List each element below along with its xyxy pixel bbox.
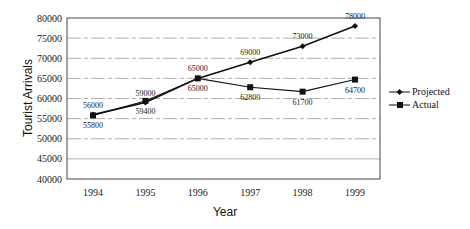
diamond-marker-icon — [352, 23, 358, 29]
y-tick-label: 65000 — [37, 73, 62, 84]
y-tick-label: 75000 — [37, 33, 62, 44]
y-tick-label: 40000 — [37, 174, 62, 185]
diamond-marker-icon — [300, 43, 306, 49]
y-tick-label: 45000 — [37, 153, 62, 164]
data-label: 55800 — [83, 121, 103, 130]
x-tick-label: 1995 — [135, 187, 155, 198]
y-axis-ticks: 4000045000500005500060000650007000075000… — [37, 13, 62, 185]
x-axis-title: Year — [213, 205, 237, 219]
square-marker-icon — [247, 84, 253, 90]
y-tick-label: 55000 — [37, 113, 62, 124]
series-line-projected — [93, 26, 355, 115]
x-tick-label: 1998 — [293, 187, 313, 198]
data-label: 59000 — [135, 89, 155, 98]
y-tick-label: 70000 — [37, 53, 62, 64]
legend-item-actual: Actual — [389, 99, 439, 110]
square-marker-icon — [90, 112, 96, 118]
data-label: 62800 — [240, 93, 260, 102]
square-marker-icon — [300, 89, 306, 95]
series-lines — [90, 23, 358, 118]
x-tick-label: 1999 — [345, 187, 365, 198]
legend-item-projected: Projected — [389, 86, 450, 97]
square-marker-icon — [352, 77, 358, 83]
x-tick-label: 1996 — [188, 187, 208, 198]
data-label: 64700 — [345, 86, 365, 95]
legend: Projected Actual — [389, 86, 450, 110]
data-label: 73000 — [293, 32, 313, 41]
x-tick-label: 1997 — [240, 187, 260, 198]
square-marker-icon — [142, 98, 148, 104]
legend-label-projected: Projected — [412, 86, 450, 97]
y-tick-label: 80000 — [37, 13, 62, 24]
diamond-marker-icon — [397, 89, 403, 95]
data-label: 61700 — [293, 98, 313, 107]
data-labels: 5600059000650006900073000780005580059400… — [83, 12, 365, 130]
data-label: 65000 — [188, 64, 208, 73]
square-marker-icon — [397, 102, 403, 108]
data-label: 56000 — [83, 101, 103, 110]
legend-label-actual: Actual — [412, 99, 439, 110]
diamond-marker-icon — [247, 59, 253, 65]
data-label: 59400 — [135, 107, 155, 116]
y-axis-title: Tourist Arrivals — [21, 59, 35, 137]
y-tick-label: 60000 — [37, 93, 62, 104]
square-marker-icon — [195, 75, 201, 81]
gridlines — [67, 38, 380, 159]
line-chart: 4000045000500005500060000650007000075000… — [0, 0, 470, 229]
data-label: 78000 — [345, 12, 365, 21]
data-label: 69000 — [240, 48, 260, 57]
y-tick-label: 50000 — [37, 133, 62, 144]
x-axis-ticks: 199419951996199719981999 — [83, 187, 365, 198]
x-tick-label: 1994 — [83, 187, 103, 198]
data-label: 65000 — [188, 84, 208, 93]
series-line-actual — [93, 78, 355, 115]
